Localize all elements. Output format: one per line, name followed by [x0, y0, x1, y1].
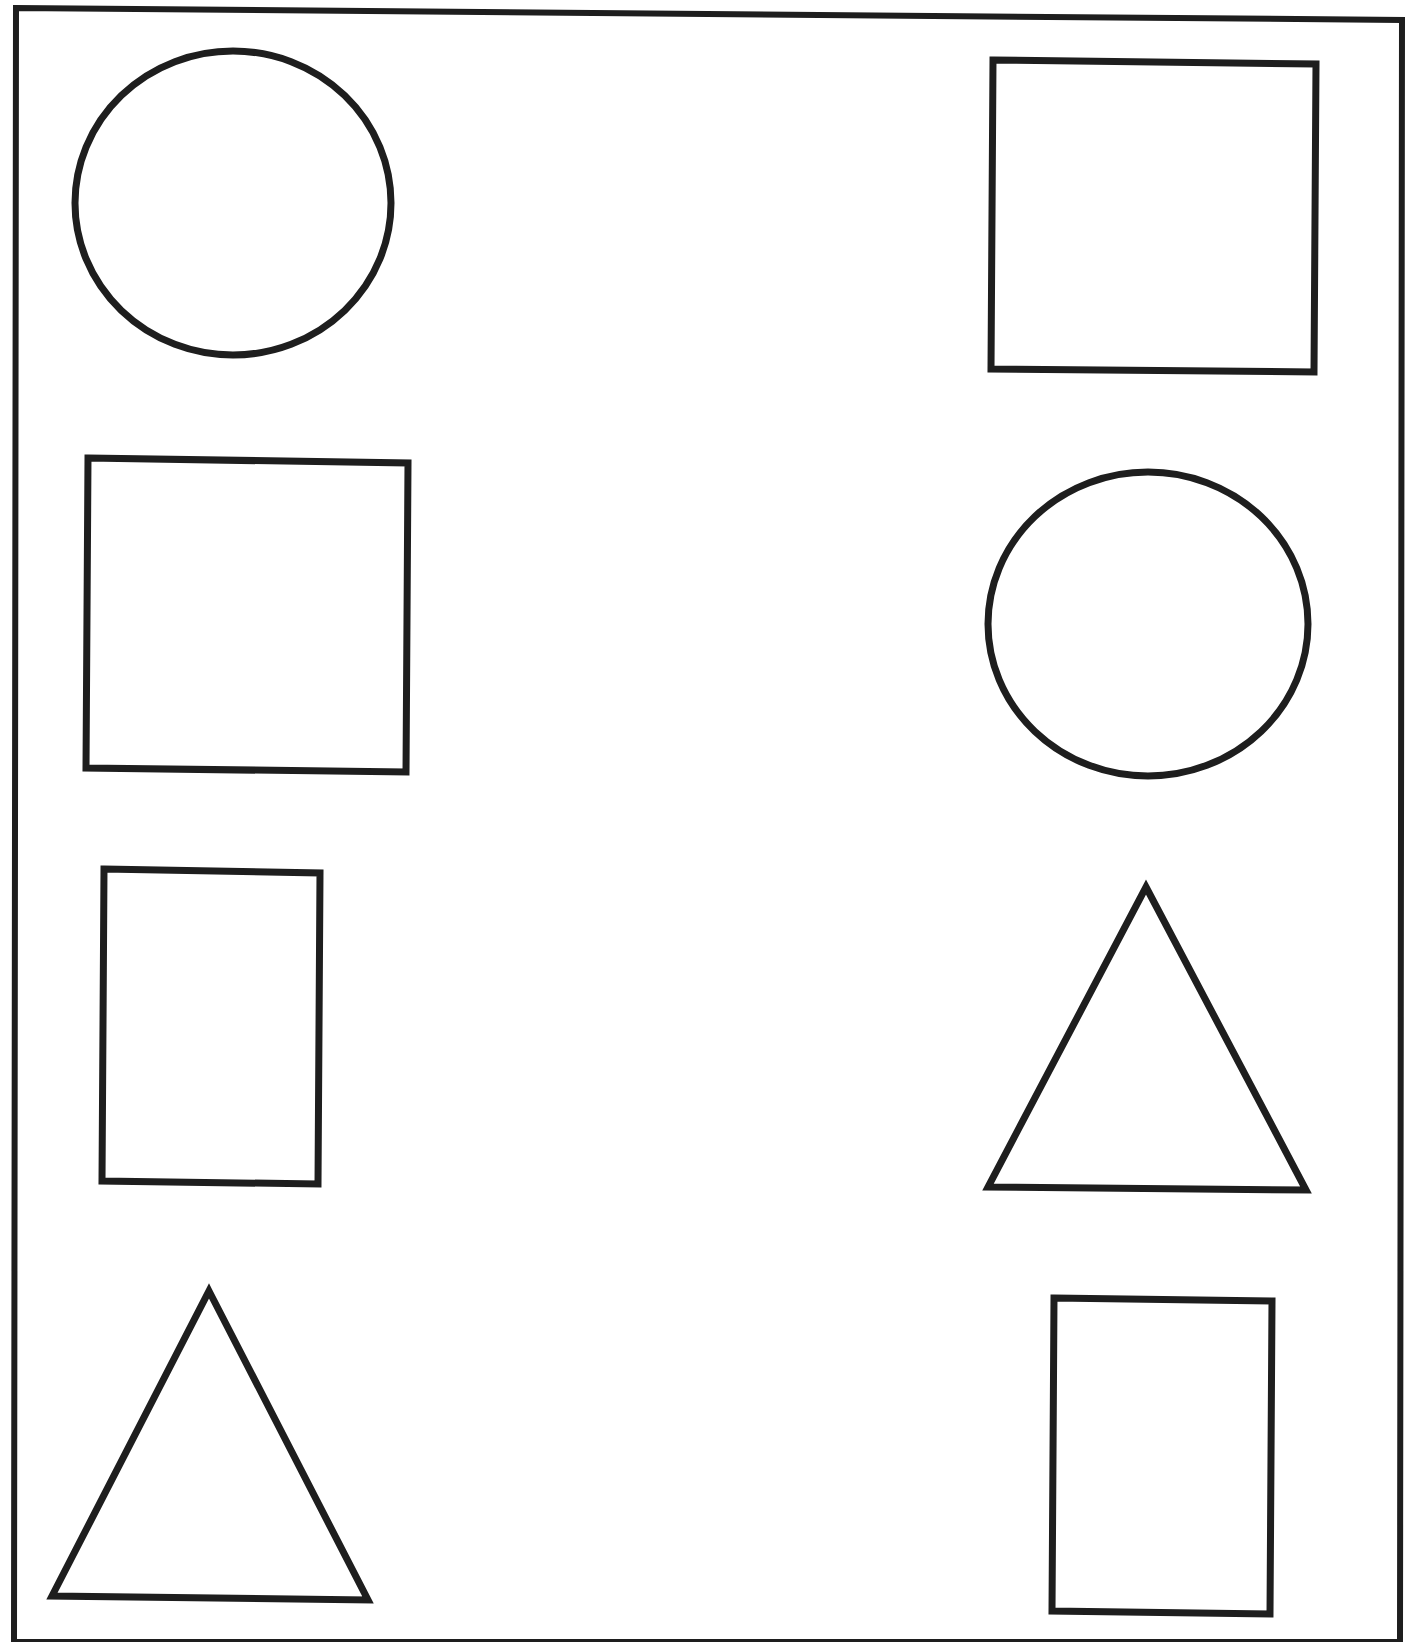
page-frame-border: [14, 8, 1402, 1642]
rectangle-shape-right: [1052, 1298, 1272, 1614]
rectangle-shape-left: [102, 869, 320, 1184]
triangle-shape-right: [988, 887, 1306, 1190]
circle-shape-left: [75, 51, 391, 355]
left-column-shapes: [52, 51, 408, 1600]
worksheet-canvas: [0, 0, 1410, 1642]
square-shape-right: [991, 60, 1316, 372]
circle-shape-right: [988, 472, 1308, 776]
triangle-shape-left: [52, 1291, 368, 1600]
right-column-shapes: [988, 60, 1316, 1614]
square-shape-left: [86, 458, 408, 772]
shape-worksheet: [0, 0, 1410, 1642]
